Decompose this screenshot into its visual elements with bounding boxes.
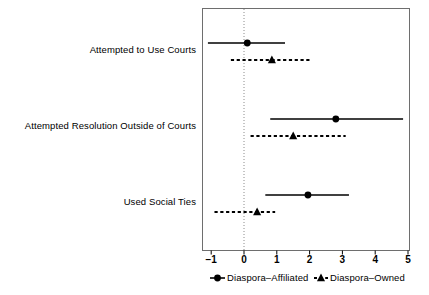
category-label-attempted-to-use-courts: Attempted to Use Courts [90, 44, 196, 55]
estimate-marker-s1-c2 [253, 208, 261, 216]
estimate-marker-s0-c0 [244, 40, 251, 47]
x-tick-label-5: 5 [388, 254, 428, 265]
legend-label-diaspora-owned: Diaspora–Owned [330, 272, 405, 283]
estimate-marker-s0-c1 [332, 116, 339, 123]
data-layer [208, 40, 403, 216]
legend-label-diaspora-affiliated: Diaspora–Affiliated [227, 272, 308, 283]
estimate-marker-s1-c1 [289, 132, 297, 140]
category-label-used-social-ties: Used Social Ties [124, 196, 196, 207]
legend-marker-circle [214, 275, 221, 282]
estimate-marker-s1-c0 [268, 56, 276, 64]
plot-canvas [0, 0, 429, 295]
category-label-attempted-resolution-outside-of-courts: Attempted Resolution Outside of Courts [25, 120, 196, 131]
coefficient-plot-figure: Attempted to Use Courts Attempted Resolu… [0, 0, 429, 295]
estimate-marker-s0-c2 [305, 192, 312, 199]
plot-frame [203, 9, 410, 251]
legend-marker-triangle [317, 274, 325, 282]
